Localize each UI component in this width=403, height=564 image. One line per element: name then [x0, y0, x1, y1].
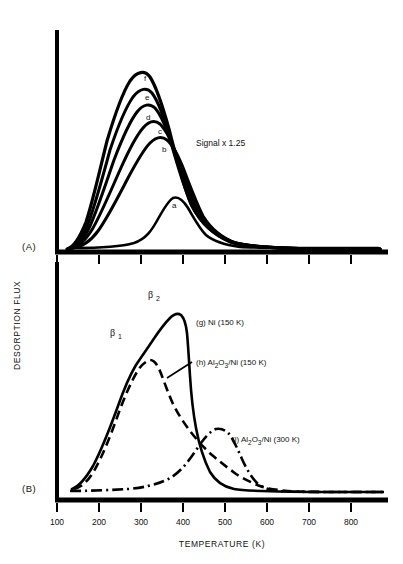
series-label-i-tail: /Ni (300 K)	[261, 435, 300, 444]
panel-a: (A) a b c d e f	[22, 30, 388, 264]
panel-b-leader-h	[167, 362, 192, 378]
panel-a-label-c: c	[158, 127, 162, 136]
signal-scale-annotation: Signal x 1.25	[196, 138, 245, 148]
beta2-symbol: β	[148, 289, 153, 300]
tick-label-100: 100	[50, 517, 64, 527]
panel-b-tick-labels: 100 200 300 400 500 600 700 800	[50, 517, 358, 527]
series-label-i-head: (i) Al	[232, 435, 248, 444]
panel-b-curve-g	[72, 314, 382, 492]
panel-a-curve-b	[72, 138, 380, 249]
series-label-i: (i) Al2O3/Ni (300 K)	[232, 435, 300, 446]
svg-text:(i) Al2O3/Ni (300 K): (i) Al2O3/Ni (300 K)	[232, 435, 300, 446]
panel-a-label-b: b	[162, 145, 167, 154]
series-label-h-tail: /Ni (150 K)	[228, 358, 267, 367]
panel-b-curve-i	[70, 429, 384, 492]
series-label-g: (g) Ni (150 K)	[196, 318, 244, 327]
tick-label-400: 400	[176, 517, 190, 527]
panel-b-peak-tags: β 2 β 1	[110, 289, 160, 340]
beta1-symbol: β	[110, 327, 115, 338]
panel-b-tag: (B)	[22, 483, 36, 494]
series-label-h-head: (h) Al	[196, 358, 215, 367]
panel-a-tag: (A)	[22, 241, 36, 252]
x-axis-label: TEMPERATURE (K)	[179, 539, 265, 549]
figure-svg: DESORPTION FLUX (A)	[0, 0, 403, 564]
panel-b-curve-h	[74, 360, 384, 492]
series-label-h: (h) Al2O3/Ni (150 K)	[196, 358, 267, 369]
panel-b-ticks	[57, 503, 351, 512]
beta2-subscript: 2	[156, 295, 160, 302]
panel-b: 100 200 300 400 500 600 700 800 TEMPERAT…	[22, 262, 388, 549]
panel-a-curves	[67, 72, 380, 249]
panel-a-label-e: e	[145, 93, 150, 102]
panel-a-label-a: a	[172, 201, 177, 210]
tick-label-600: 600	[260, 517, 274, 527]
tick-label-300: 300	[134, 517, 148, 527]
y-axis-label: DESORPTION FLUX	[12, 281, 22, 370]
svg-text:(h) Al2O3/Ni (150 K): (h) Al2O3/Ni (150 K)	[196, 358, 267, 369]
tick-label-500: 500	[218, 517, 232, 527]
beta1-subscript: 1	[118, 333, 122, 340]
panel-a-label-d: d	[146, 113, 150, 122]
tick-label-200: 200	[92, 517, 106, 527]
desorption-flux-figure: DESORPTION FLUX (A)	[0, 0, 403, 564]
tick-label-700: 700	[302, 517, 316, 527]
tick-label-800: 800	[344, 517, 358, 527]
panel-a-ticks	[57, 255, 351, 264]
